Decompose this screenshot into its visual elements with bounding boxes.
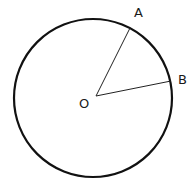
label-point-b: B xyxy=(178,72,187,87)
circle xyxy=(14,19,172,177)
label-center-o: O xyxy=(79,96,89,111)
label-point-a: A xyxy=(134,5,143,20)
circle-diagram: A B O xyxy=(0,0,195,188)
radius-ob xyxy=(96,81,171,96)
radius-oa xyxy=(96,28,130,96)
